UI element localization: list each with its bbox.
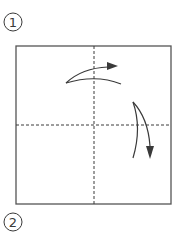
step-1-number: 1 [9,15,17,30]
step-1-marker: 1 [4,13,22,31]
origami-diagram: 1 2 [0,0,179,234]
step-2-marker: 2 [4,213,22,231]
step-2-number: 2 [9,215,17,230]
fold-down-arrow-icon [133,102,154,159]
